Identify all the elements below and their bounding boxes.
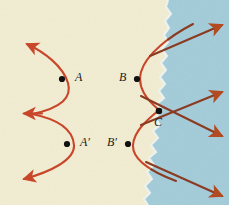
point-a — [59, 76, 65, 82]
point-c — [156, 108, 163, 115]
physics-figure: A B A′ B′ C — [0, 0, 229, 210]
label-point-a-prime: A′ — [80, 136, 90, 148]
label-point-b: B — [119, 71, 126, 83]
figure-canvas — [0, 0, 229, 210]
point-a-prime — [64, 141, 70, 147]
point-b — [134, 76, 140, 82]
label-point-a: A — [75, 71, 82, 83]
label-point-c: C — [154, 116, 162, 128]
label-point-b-prime: B′ — [107, 136, 117, 148]
point-b-prime — [125, 141, 131, 147]
